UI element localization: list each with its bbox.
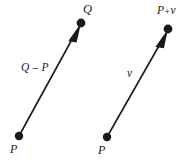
label-p-plus-v-addend: v	[170, 4, 175, 16]
label-p-plus-v-base: P	[157, 4, 164, 16]
label-point-q: Q	[83, 3, 92, 16]
label-vector-q-minus-p: Q – P	[21, 62, 49, 74]
right-tail-point-dot	[103, 133, 111, 141]
vector-diagram-figure: Q Q – P P P+v v P	[0, 0, 194, 163]
right-vector-shaft	[107, 44, 160, 137]
label-point-p-plus-v: P+v	[157, 5, 176, 17]
left-tail-point-dot	[15, 132, 23, 140]
vector-diagram-canvas	[0, 0, 194, 163]
label-point-p-right: P	[98, 144, 105, 156]
label-point-p-left: P	[10, 143, 17, 155]
label-vector-v: v	[127, 68, 132, 80]
left-vector-group	[15, 19, 86, 141]
left-head-point-dot	[77, 19, 86, 28]
right-vector-group	[103, 25, 173, 142]
left-vector-shaft	[19, 39, 73, 137]
right-head-point-dot	[164, 25, 173, 34]
